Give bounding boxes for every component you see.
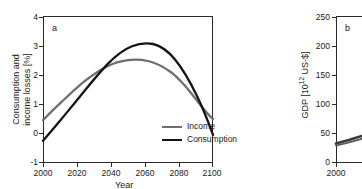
legend-label-income: Income (187, 122, 215, 131)
panel-b-ytick-50: 50 (306, 129, 330, 138)
panel-a-ytick-2: 2 (24, 71, 38, 80)
panel-b-ytick-100: 100 (306, 100, 330, 109)
panel-a-ytick-0: 0 (24, 129, 38, 138)
legend-row-consumption: Consumption (162, 133, 237, 146)
panel-a-xlabel: Year (115, 180, 133, 189)
panel-b: GDP [1012 US-$] 250 200 150 100 50 0 b 2… (290, 0, 362, 189)
panel-b-curves (336, 16, 362, 163)
panel-a-xtick-mark (43, 163, 44, 167)
panel-a-xtick-2000: 2000 (28, 169, 58, 178)
panel-a: Consumption and income losses [%] 4 3 2 … (0, 0, 250, 189)
panel-a-xtick-2040: 2040 (96, 169, 126, 178)
panel-a-ytick-1: 1 (24, 100, 38, 109)
panel-b-ylabel-exponent: 12 (298, 77, 305, 84)
legend-swatch-income-icon (162, 126, 182, 128)
panel-a-xtick-mark (212, 163, 213, 167)
legend-label-consumption: Consumption (187, 135, 237, 144)
panel-a-ytick-4: 4 (24, 13, 38, 22)
panel-b-ytick-200: 200 (306, 42, 330, 51)
figure-root: Consumption and income losses [%] 4 3 2 … (0, 0, 362, 189)
panel-a-xtick-mark (179, 163, 180, 167)
panel-b-xtick-2000: 2000 (321, 169, 351, 178)
panel-a-legend: Income Consumption (162, 120, 237, 146)
panel-b-ytick-150: 150 (306, 71, 330, 80)
panel-a-xtick-2100: 2100 (197, 169, 227, 178)
panel-a-xtick-2060: 2060 (130, 169, 160, 178)
panel-a-xtick-mark (77, 163, 78, 167)
series-gdp-path (336, 127, 362, 144)
panel-b-ytick-0: 0 (306, 158, 330, 167)
panel-a-ytick-neg1: -1 (22, 158, 38, 167)
panel-a-ytick-3: 3 (24, 42, 38, 51)
panel-a-ylabel-line2: income losses [%] (22, 17, 33, 162)
panel-a-xtick-2020: 2020 (62, 169, 92, 178)
panel-a-xtick-2080: 2080 (164, 169, 194, 178)
legend-swatch-consumption-icon (162, 139, 182, 141)
panel-a-xtick-mark (145, 163, 146, 167)
panel-a-ylabel-line1: Consumption and (11, 17, 22, 162)
legend-row-income: Income (162, 120, 237, 133)
panel-b-xtick-mark (336, 163, 337, 167)
panel-a-xtick-mark (111, 163, 112, 167)
panel-b-ytick-250: 250 (306, 13, 330, 22)
